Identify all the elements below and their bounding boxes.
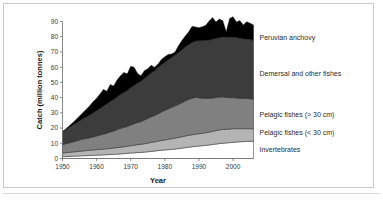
y-tick-label: 10 [51, 140, 59, 147]
y-tick-labels: 0102030405060708090 [51, 18, 59, 162]
legend-label-3: Pelagic fishes (< 30 cm) [260, 129, 335, 137]
legend-label-2: Pelagic fishes (> 30 cm) [260, 111, 335, 119]
y-tick-label: 90 [51, 18, 59, 25]
series-areas [63, 17, 254, 159]
y-tick-label: 70 [51, 48, 59, 55]
x-tick-label: 1990 [192, 163, 207, 170]
legend-label-4: Invertebrates [260, 146, 301, 153]
x-tick-labels: 195019601970198019902000 [55, 163, 240, 170]
x-axis-title: Year [150, 176, 166, 185]
x-tick-label: 1980 [158, 163, 173, 170]
x-tick-label: 1970 [123, 163, 138, 170]
y-axis-title: Catch (million tonnes) [35, 50, 44, 129]
y-tick-label: 80 [51, 33, 59, 40]
legend-label-0: Peruvian anchovy [260, 34, 316, 42]
y-tick-label: 30 [51, 109, 59, 116]
y-tick-label: 50 [51, 79, 59, 86]
y-tick-label: 20 [51, 124, 59, 131]
y-tick-label: 40 [51, 94, 59, 101]
y-tick-label: 0 [54, 155, 58, 162]
y-tick-label: 60 [51, 64, 59, 71]
legend-labels: Peruvian anchovyDemersal and other fishe… [260, 34, 342, 153]
stacked-area-chart: 0102030405060708090 19501960197019801990… [0, 0, 383, 201]
x-tick-label: 2000 [226, 163, 241, 170]
x-tick-label: 1950 [55, 163, 70, 170]
legend-label-1: Demersal and other fishes [260, 70, 342, 77]
x-tick-label: 1960 [89, 163, 104, 170]
chart-canvas: 0102030405060708090 19501960197019801990… [0, 0, 383, 201]
